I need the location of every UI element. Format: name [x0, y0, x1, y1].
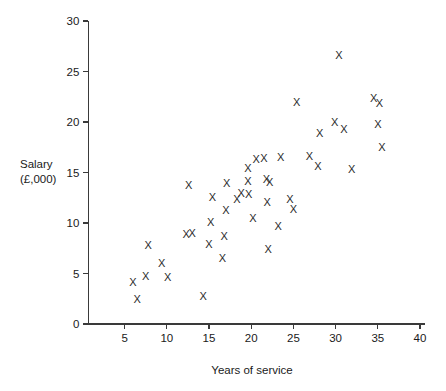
scatter-chart: 051015202530 510152025303540 XXXXXXXXXXX… [0, 0, 446, 391]
data-point: X [145, 239, 153, 251]
data-point: X [260, 152, 268, 164]
data-point: X [221, 230, 229, 242]
y-tick-label-30: 30 [67, 15, 80, 27]
x-tick-label-25: 25 [287, 332, 300, 344]
data-point: X [378, 141, 386, 153]
data-point: X [306, 150, 314, 162]
y-tick-label-5: 5 [73, 268, 79, 280]
data-point: X [237, 187, 245, 199]
x-axis-title: Years of service [211, 364, 292, 376]
data-point: X [188, 227, 196, 239]
data-point: X [244, 175, 252, 187]
data-points: XXXXXXXXXXXXXXXXXXXXXXXXXXXXXXXXXXXXXXXX… [129, 49, 386, 304]
data-point: X [134, 293, 142, 305]
data-point: X [222, 204, 230, 216]
x-tick-label-5: 5 [121, 332, 127, 344]
data-point: X [249, 212, 257, 224]
data-point: X [293, 96, 301, 108]
data-point: X [340, 123, 348, 135]
axes [88, 21, 425, 324]
data-point: X [129, 276, 137, 288]
data-point: X [316, 127, 324, 139]
data-point: X [164, 271, 172, 283]
data-point: X [142, 270, 150, 282]
data-point: X [314, 160, 322, 172]
y-tick-label-0: 0 [73, 318, 79, 330]
data-point: X [199, 290, 207, 302]
data-point: X [264, 196, 272, 208]
data-point: X [253, 153, 261, 165]
y-axis-tick-labels: 051015202530 [67, 15, 80, 330]
data-point: X [331, 116, 339, 128]
data-point: X [264, 243, 272, 255]
data-point: X [275, 220, 283, 232]
y-tick-label-25: 25 [67, 66, 80, 78]
data-point: X [376, 97, 384, 109]
data-point: X [185, 179, 193, 191]
x-tick-label-30: 30 [329, 332, 342, 344]
data-point: X [245, 188, 253, 200]
y-axis-title-line1: Salary [20, 158, 53, 170]
data-point: X [205, 238, 213, 250]
data-point: X [286, 193, 294, 205]
x-tick-label-15: 15 [203, 332, 216, 344]
data-point: X [223, 177, 231, 189]
y-tick-label-20: 20 [67, 116, 80, 128]
x-tick-label-40: 40 [414, 332, 427, 344]
axis-lines [88, 21, 425, 324]
data-point: X [219, 252, 227, 264]
data-point: X [348, 163, 356, 175]
data-point: X [266, 176, 274, 188]
data-point: X [374, 118, 382, 130]
x-tick-label-10: 10 [160, 332, 173, 344]
plot-area: 051015202530 510152025303540 XXXXXXXXXXX… [0, 0, 446, 391]
y-tick-label-15: 15 [67, 167, 80, 179]
data-point: X [207, 216, 215, 228]
data-point: X [335, 49, 343, 61]
x-tick-label-35: 35 [371, 332, 384, 344]
data-point: X [158, 257, 166, 269]
y-axis-title-line2: (£,000) [20, 173, 57, 185]
data-point: X [277, 151, 285, 163]
data-point: X [209, 191, 217, 203]
data-point: X [244, 162, 252, 174]
x-axis-tick-labels: 510152025303540 [121, 332, 426, 344]
x-tick-label-20: 20 [245, 332, 258, 344]
y-tick-label-10: 10 [67, 217, 80, 229]
